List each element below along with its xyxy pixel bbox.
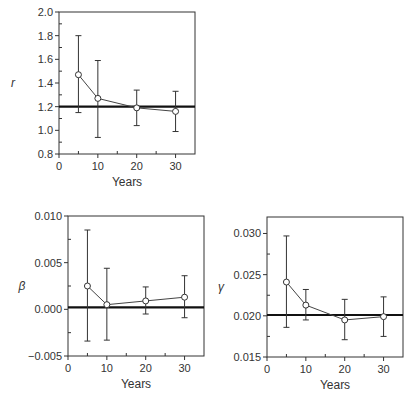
x-axis-label: Years <box>121 377 151 391</box>
data-point-marker <box>143 298 149 304</box>
data-point-marker <box>283 279 289 285</box>
x-tick-label: 10 <box>300 363 312 375</box>
x-tick-label: 30 <box>377 363 389 375</box>
x-tick-label: 10 <box>92 160 104 172</box>
y-tick-label: 0.020 <box>233 310 261 322</box>
data-point-marker <box>95 95 101 101</box>
y-axis-label: β <box>18 279 26 293</box>
y-tick-label: 0.000 <box>34 303 62 315</box>
plot-frame <box>59 12 195 154</box>
data-point-marker <box>342 317 348 323</box>
y-tick-label: 0.8 <box>38 148 53 160</box>
y-tick-label: 1.2 <box>38 101 53 113</box>
x-tick-label: 30 <box>178 362 190 374</box>
y-tick-label: 1.6 <box>38 53 53 65</box>
y-tick-label: 0.005 <box>34 257 62 269</box>
data-point-marker <box>303 302 309 308</box>
x-tick-label: 30 <box>169 160 181 172</box>
y-tick-label: 1.4 <box>38 77 53 89</box>
x-tick-label: 0 <box>65 362 71 374</box>
x-axis-label: Years <box>320 378 350 392</box>
x-tick-label: 20 <box>339 363 351 375</box>
series-line <box>87 286 184 305</box>
y-tick-label: 0.015 <box>233 351 261 363</box>
y-axis-label: γ <box>218 280 225 294</box>
x-axis-label: Years <box>112 175 142 189</box>
data-point-marker <box>173 108 179 114</box>
data-point-marker <box>84 283 90 289</box>
y-tick-label: 1.8 <box>38 30 53 42</box>
x-tick-label: 20 <box>131 160 143 172</box>
y-axis-label: r <box>11 76 16 90</box>
y-tick-label: 1.0 <box>38 124 53 136</box>
chart-gamma: 0.0150.0200.0250.0300102030Yearsγ <box>209 207 413 402</box>
data-point-marker <box>182 294 188 300</box>
y-tick-label: 2.0 <box>38 6 53 18</box>
data-point-marker <box>104 302 110 308</box>
x-tick-label: 20 <box>140 362 152 374</box>
x-tick-label: 0 <box>56 160 62 172</box>
y-tick-label: 0.010 <box>34 210 62 222</box>
chart-beta: −0.0050.0000.0050.0100102030Yearsβ <box>10 206 214 402</box>
data-point-marker <box>75 72 81 78</box>
x-tick-label: 10 <box>101 362 113 374</box>
data-point-marker <box>381 314 387 320</box>
chart-r: 0.81.01.21.41.61.82.00102030Yearsr <box>1 2 205 200</box>
y-tick-label: 0.025 <box>233 269 261 281</box>
y-tick-label: 0.030 <box>233 227 261 239</box>
data-point-marker <box>134 105 140 111</box>
y-tick-label: −0.005 <box>28 350 62 362</box>
x-tick-label: 0 <box>264 363 270 375</box>
